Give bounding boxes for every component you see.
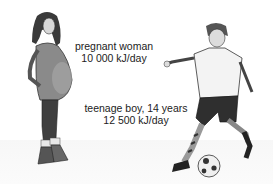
pregnant-woman-illustration	[12, 8, 82, 178]
teenage-boy-illustration	[162, 18, 267, 183]
pregnant-woman-title: pregnant woman	[68, 40, 160, 52]
pregnant-woman-label: pregnant woman 10 000 kJ/day	[68, 40, 160, 64]
teenage-boy-label: teenage boy, 14 years 12 500 kJ/day	[80, 102, 192, 126]
pregnant-woman-energy: 10 000 kJ/day	[68, 52, 160, 64]
illustration-scene: pregnant woman 10 000 kJ/day teenage boy…	[0, 0, 273, 184]
teenage-boy-energy: 12 500 kJ/day	[80, 114, 192, 126]
teenage-boy-title: teenage boy, 14 years	[80, 102, 192, 114]
